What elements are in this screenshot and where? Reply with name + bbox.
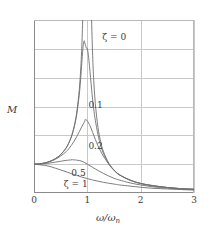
- x-tick-label: 3: [186, 196, 202, 205]
- curve-label-zeta-0: ζ = 0: [102, 33, 126, 42]
- x-tick-label: 1: [79, 196, 95, 205]
- x-tick-label: 0: [26, 196, 42, 205]
- figure-frequency-response: M ω/ωn 01234560123 ζ = 00.10.20.5ζ = 1: [0, 0, 216, 234]
- curve-label-zeta-0-5: 0.5: [71, 169, 85, 178]
- plot-area: [34, 20, 194, 193]
- curve-label-zeta-0-1: 0.1: [88, 101, 102, 110]
- y-axis-label: M: [7, 104, 17, 115]
- curve-zeta-0-2: [34, 119, 194, 189]
- x-axis-label-subscript: n: [116, 217, 121, 225]
- gridline-vertical: [194, 20, 195, 193]
- x-tick-label: 2: [133, 196, 149, 205]
- curve-zeta-0-1: [34, 41, 194, 190]
- curve-zeta-0-5: [34, 160, 194, 190]
- curve-label-zeta-1: ζ = 1: [64, 180, 88, 189]
- curve-zeta-1: [34, 164, 194, 190]
- curve-label-zeta-0-2: 0.2: [88, 142, 102, 151]
- x-axis-label-main: ω/ω: [96, 212, 116, 223]
- curve-layer: [34, 20, 194, 193]
- curve-zeta-0: [34, 20, 194, 189]
- x-axis-label: ω/ωn: [0, 212, 216, 225]
